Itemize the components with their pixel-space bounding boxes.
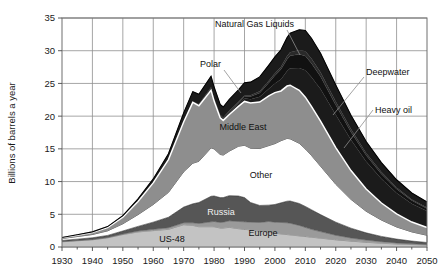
ytick-label-20: 20 xyxy=(44,111,55,122)
xtick-label-2040: 2040 xyxy=(386,255,407,266)
xtick-label-1990: 1990 xyxy=(234,255,255,266)
xtick-label-1980: 1980 xyxy=(204,255,225,266)
annotation-deepwater: Deepwater xyxy=(366,67,410,77)
annotation-natural-gas-liquids: Natural Gas Liquids xyxy=(215,19,295,29)
ytick-label-5: 5 xyxy=(50,209,55,220)
xtick-label-2020: 2020 xyxy=(325,255,346,266)
oil-production-chart: 0510152025303519301940195019601970198019… xyxy=(0,0,447,273)
ytick-label-15: 15 xyxy=(44,143,55,154)
xtick-label-2030: 2030 xyxy=(356,255,377,266)
annotation-heavy-oil: Heavy oil xyxy=(375,105,412,115)
annotation-russia: Russia xyxy=(207,207,235,217)
annotation-other: Other xyxy=(250,170,273,180)
xtick-label-1960: 1960 xyxy=(143,255,164,266)
ytick-label-0: 0 xyxy=(50,241,55,252)
xtick-label-1930: 1930 xyxy=(51,255,72,266)
annotation-us48: US-48 xyxy=(159,234,185,244)
y-axis-title: Billions of barrels a year xyxy=(6,82,17,183)
xtick-label-1970: 1970 xyxy=(173,255,194,266)
ytick-label-35: 35 xyxy=(44,12,55,23)
xtick-label-1950: 1950 xyxy=(112,255,133,266)
annotation-polar: Polar xyxy=(200,59,221,69)
xtick-label-2010: 2010 xyxy=(295,255,316,266)
xtick-label-1940: 1940 xyxy=(82,255,103,266)
ytick-label-10: 10 xyxy=(44,176,55,187)
ytick-label-30: 30 xyxy=(44,45,55,56)
xtick-label-2050: 2050 xyxy=(416,255,437,266)
annotation-middle-east: Middle East xyxy=(219,122,267,132)
chart-svg: 0510152025303519301940195019601970198019… xyxy=(0,0,447,273)
xtick-label-2000: 2000 xyxy=(264,255,285,266)
ytick-label-25: 25 xyxy=(44,78,55,89)
annotation-europe: Europe xyxy=(248,228,277,238)
